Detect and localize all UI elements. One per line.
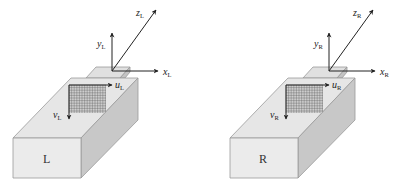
z-axis-arrow — [329, 10, 373, 71]
z-axis-label: zR — [352, 7, 362, 19]
z-axis-label: zL — [135, 7, 144, 19]
image-plane-grid — [286, 85, 323, 113]
stereo-camera-diagram: uL vL xL yL zL L uR vR xR yR — [0, 0, 402, 190]
lens-mount — [86, 67, 130, 78]
camera-left: uL vL xL yL zL L — [13, 7, 171, 178]
camera-label: L — [43, 152, 50, 166]
x-axis-label: xL — [162, 66, 171, 78]
x-axis-label: xR — [379, 66, 389, 78]
camera-label: R — [259, 152, 267, 166]
z-axis-arrow — [112, 10, 156, 71]
lens-mount — [303, 67, 347, 78]
y-axis-label: yL — [96, 38, 105, 50]
image-plane-grid — [69, 85, 106, 113]
y-axis-label: yR — [313, 38, 323, 50]
camera-right: uR vR xR yR zR R — [230, 7, 389, 178]
